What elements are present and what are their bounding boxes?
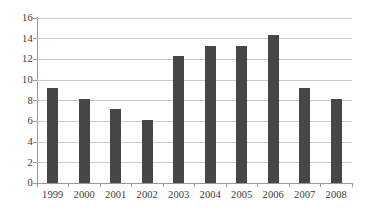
x-tick-mark <box>68 183 69 187</box>
x-tick-label: 2001 <box>100 189 132 201</box>
x-tick-mark <box>131 183 132 187</box>
y-tick-label: 4 <box>7 137 33 147</box>
y-tick-label: 0 <box>7 178 33 188</box>
x-tick-label: 2000 <box>69 189 101 201</box>
x-tick-label: 2007 <box>289 189 321 201</box>
y-tick-label: 6 <box>7 116 33 126</box>
bar <box>47 88 58 183</box>
bar <box>331 99 342 184</box>
bar <box>79 99 90 184</box>
x-tick-mark <box>320 183 321 187</box>
x-tick-label: 2004 <box>195 189 227 201</box>
x-tick-mark <box>194 183 195 187</box>
bar <box>142 120 153 183</box>
bar-chart: 16 14 12 10 8 6 4 2 0 <box>0 0 370 216</box>
x-tick-mark <box>257 183 258 187</box>
x-tick-label: 2005 <box>226 189 258 201</box>
bar <box>299 88 310 183</box>
x-tick-label: 2003 <box>163 189 195 201</box>
plot-area <box>37 14 352 183</box>
y-tick-label: 14 <box>7 34 33 44</box>
y-tick-label: 2 <box>7 158 33 168</box>
y-axis-labels: 16 14 12 10 8 6 4 2 0 <box>0 0 33 216</box>
bar <box>268 35 279 183</box>
y-tick-label: 12 <box>7 54 33 64</box>
x-tick-label: 1999 <box>37 189 69 201</box>
x-tick-label: 2002 <box>132 189 164 201</box>
grid-line <box>37 80 352 81</box>
x-axis-labels: 1999200020012002200320042005200620072008 <box>37 189 352 209</box>
x-tick-mark <box>352 183 353 187</box>
x-tick-label: 2006 <box>258 189 290 201</box>
grid-line <box>37 59 352 60</box>
x-tick-mark <box>289 183 290 187</box>
x-tick-mark <box>37 183 38 187</box>
x-tick-mark <box>163 183 164 187</box>
bar <box>205 46 216 183</box>
y-tick-label: 16 <box>7 13 33 23</box>
bar <box>236 46 247 183</box>
grid-line <box>37 18 352 19</box>
x-tick-label: 2008 <box>321 189 353 201</box>
x-tick-mark <box>100 183 101 187</box>
bar <box>173 56 184 183</box>
x-tick-mark <box>226 183 227 187</box>
y-tick-label: 10 <box>7 75 33 85</box>
y-tick-label: 8 <box>7 96 33 106</box>
bar <box>110 109 121 183</box>
grid-line <box>37 38 352 39</box>
